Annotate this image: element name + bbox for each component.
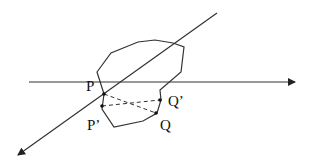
- label-p: P: [86, 78, 94, 94]
- point-q-prime: [158, 98, 162, 102]
- point-q: [154, 111, 158, 115]
- point-p: [102, 92, 106, 96]
- label-q: Q: [160, 117, 171, 133]
- label-p-prime: P’: [87, 117, 100, 133]
- dashed-segment-pprime-qprime: [102, 100, 160, 106]
- point-p-prime: [100, 104, 104, 108]
- diagonal-arrow-line: [18, 13, 217, 155]
- polygon-boundary: [97, 40, 184, 127]
- label-q-prime: Q’: [168, 93, 184, 109]
- diagram-canvas: P P’ Q Q’: [0, 0, 314, 161]
